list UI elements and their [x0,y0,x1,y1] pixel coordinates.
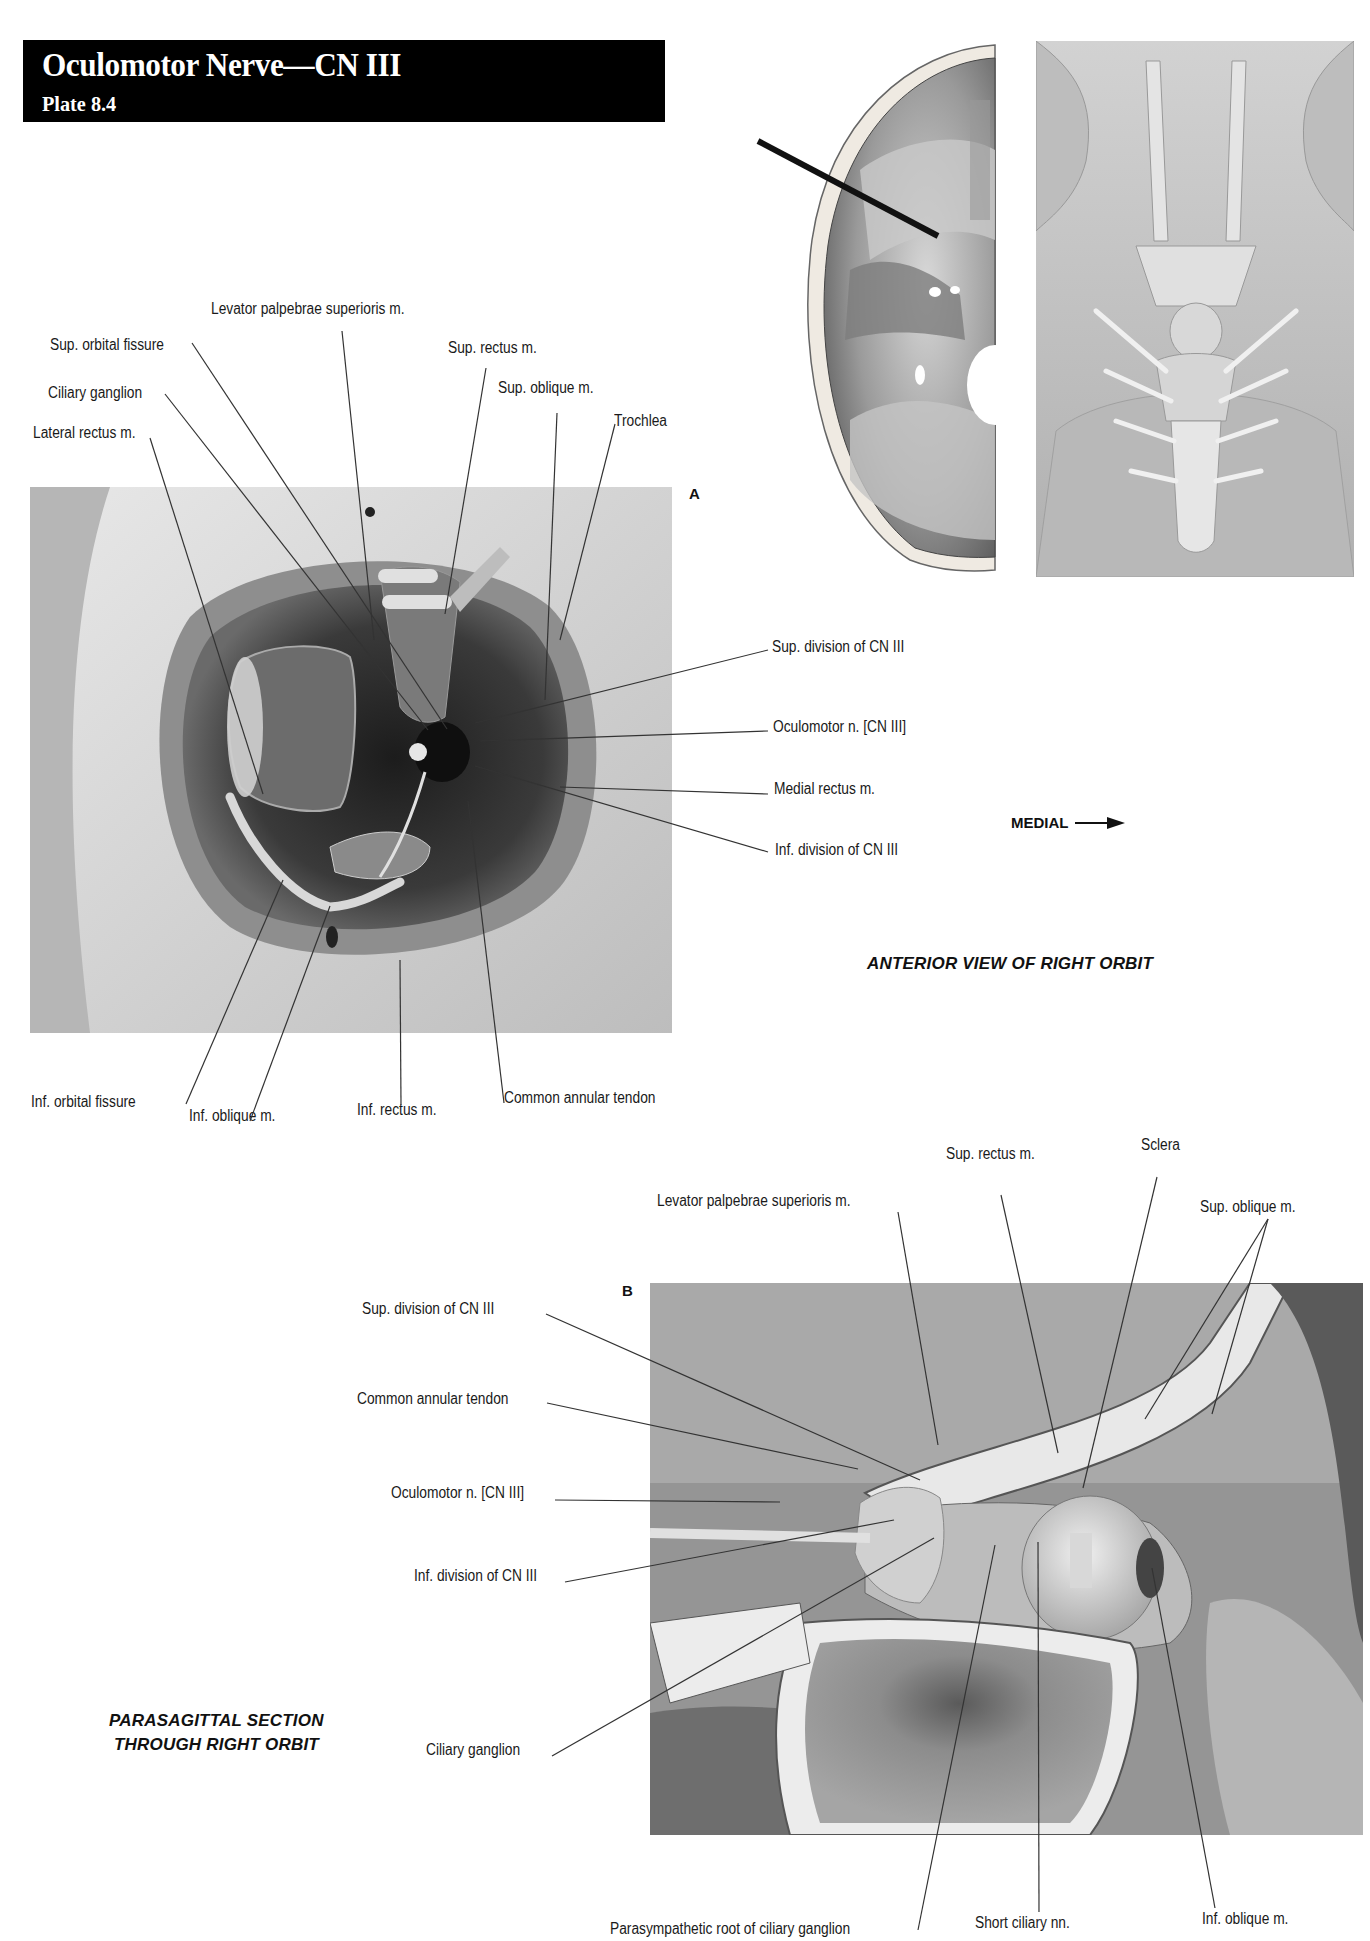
label-a-sup-oblique: Sup. oblique m. [498,379,594,397]
plate-title: Oculomotor Nerve—CN III [42,46,401,84]
label-b-common-annular-tendon: Common annular tendon [357,1390,508,1408]
label-b-oculomotor-n: Oculomotor n. [CN III] [391,1484,524,1502]
figure-b-view-title-line2: THROUGH RIGHT ORBIT [114,1735,319,1755]
medial-orientation-indicator: MEDIAL [1011,814,1125,831]
label-b-inf-division: Inf. division of CN III [414,1567,537,1585]
medial-label: MEDIAL [1011,814,1069,831]
label-b-levator: Levator palpebrae superioris m. [657,1192,851,1210]
label-b-sup-division: Sup. division of CN III [362,1300,494,1318]
label-a-inf-rectus: Inf. rectus m. [357,1101,437,1119]
label-a-sup-division: Sup. division of CN III [772,638,904,656]
label-a-common-annular-tendon: Common annular tendon [504,1089,655,1107]
figure-a-letter: A [689,485,700,502]
figure-a-view-title: ANTERIOR VIEW OF RIGHT ORBIT [867,954,1153,974]
label-b-sup-rectus: Sup. rectus m. [946,1145,1035,1163]
label-a-oculomotor-n: Oculomotor n. [CN III] [773,718,906,736]
label-a-inf-division: Inf. division of CN III [775,841,898,859]
figure-b-view-title-line1: PARASAGITTAL SECTION [109,1711,324,1731]
brain-base-illustration [1036,41,1354,577]
label-a-inf-oblique: Inf. oblique m. [189,1107,275,1125]
figure-b-parasagittal-illustration [650,1283,1363,1835]
label-a-sup-orbital-fissure: Sup. orbital fissure [50,336,164,354]
plate-page: Oculomotor Nerve—CN III Plate 8.4 [0,0,1370,1941]
skull-base-illustration [790,40,1000,575]
label-a-sup-rectus: Sup. rectus m. [448,339,537,357]
label-b-sup-oblique: Sup. oblique m. [1200,1198,1296,1216]
label-a-medial-rectus: Medial rectus m. [774,780,875,798]
arrow-right-icon [1075,816,1125,830]
label-b-sclera: Sclera [1141,1136,1180,1154]
label-a-inf-orbital-fissure: Inf. orbital fissure [31,1093,136,1111]
plate-number: Plate 8.4 [42,91,116,117]
label-b-short-ciliary: Short ciliary nn. [975,1914,1070,1932]
figure-a-orbit-illustration [30,487,672,1033]
label-b-parasympathetic-root: Parasympathetic root of ciliary ganglion [610,1920,850,1938]
label-b-inf-oblique: Inf. oblique m. [1202,1910,1288,1928]
label-a-lateral-rectus: Lateral rectus m. [33,424,135,442]
label-a-trochlea: Trochlea [614,412,667,430]
label-a-ciliary-ganglion: Ciliary ganglion [48,384,142,402]
label-b-ciliary-ganglion: Ciliary ganglion [426,1741,520,1759]
label-a-levator: Levator palpebrae superioris m. [211,300,405,318]
plate-header: Oculomotor Nerve—CN III Plate 8.4 [23,40,665,122]
figure-b-letter: B [622,1282,633,1299]
